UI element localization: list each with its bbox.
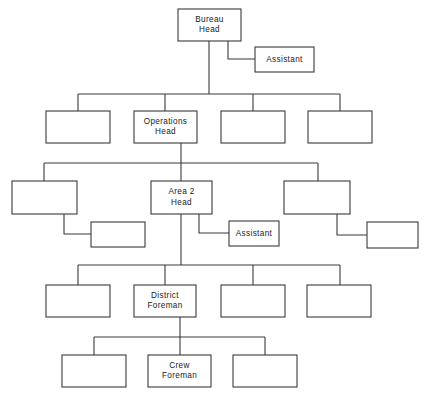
node-layer: BureauHeadAssistantOperationsHeadArea 2H…	[12, 9, 418, 387]
area-3-to-assistant-elbow	[337, 214, 367, 235]
operations-head-box-label-line-1: Operations	[144, 117, 188, 126]
area-box-1-outline	[12, 181, 77, 214]
org-chart-canvas: BureauHeadAssistantOperationsHeadArea 2H…	[0, 0, 431, 403]
district-box-1[interactable]	[46, 285, 110, 317]
area-box-3-outline	[284, 181, 350, 214]
org-chart-diagram: BureauHeadAssistantOperationsHeadArea 2H…	[0, 0, 431, 403]
crew-box-1-outline	[62, 355, 126, 387]
area-3-assistant-box-outline	[367, 222, 418, 248]
district-foreman-box-label-line-1: District	[151, 291, 179, 300]
division-box-1-outline	[46, 111, 110, 143]
area-1-assistant-box-outline	[91, 222, 145, 247]
division-box-4-outline	[308, 111, 372, 143]
crew-foreman-box-label-line-1: Crew	[169, 361, 190, 370]
area-1-assistant-box[interactable]	[91, 222, 145, 247]
area-box-3[interactable]	[284, 181, 350, 214]
district-foreman-box-label-line-2: Foreman	[147, 301, 182, 310]
area-2-assistant-box-label-line-1: Assistant	[236, 229, 273, 238]
crew-box-3[interactable]	[233, 355, 297, 387]
area-2-head-box-label-line-1: Area 2	[168, 187, 194, 196]
area-2-assistant-box[interactable]: Assistant	[229, 221, 279, 246]
district-foreman-box[interactable]: DistrictForeman	[134, 285, 196, 317]
district-box-3-outline	[221, 285, 285, 317]
crew-box-3-outline	[233, 355, 297, 387]
bureau-assistant-box[interactable]: Assistant	[255, 47, 314, 72]
operations-head-box-label-line-2: Head	[155, 127, 176, 136]
crew-foreman-box[interactable]: CrewForeman	[148, 355, 211, 387]
district-box-4[interactable]	[307, 285, 371, 317]
district-box-3[interactable]	[221, 285, 285, 317]
area-1-to-assistant-elbow	[64, 214, 91, 234]
district-box-1-outline	[46, 285, 110, 317]
crew-box-1[interactable]	[62, 355, 126, 387]
bureau-to-assistant-elbow	[228, 41, 255, 59]
division-box-3[interactable]	[221, 111, 285, 143]
division-box-1[interactable]	[46, 111, 110, 143]
bureau-head-box[interactable]: BureauHead	[178, 9, 241, 41]
bureau-head-box-label-line-1: Bureau	[195, 15, 224, 24]
area-2-head-box-label-line-2: Head	[171, 198, 192, 207]
area-3-assistant-box[interactable]	[367, 222, 418, 248]
area-2-to-assistant-elbow	[199, 214, 229, 233]
operations-head-box[interactable]: OperationsHead	[134, 111, 197, 143]
bureau-assistant-box-label-line-1: Assistant	[266, 55, 303, 64]
area-2-head-box[interactable]: Area 2Head	[151, 181, 212, 214]
district-box-4-outline	[307, 285, 371, 317]
crew-foreman-box-label-line-2: Foreman	[162, 371, 197, 380]
division-box-4[interactable]	[308, 111, 372, 143]
area-box-1[interactable]	[12, 181, 77, 214]
division-box-3-outline	[221, 111, 285, 143]
bureau-head-box-label-line-2: Head	[199, 25, 220, 34]
